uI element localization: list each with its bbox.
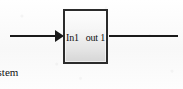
input-port-label: In1 (66, 32, 79, 43)
block-caption-text: Subsystem (0, 66, 18, 78)
output-port-label: out 1 (86, 32, 105, 43)
block-caption: Subsystem (0, 66, 183, 78)
input-signal-line[interactable] (10, 35, 58, 37)
subsystem-block[interactable]: In1 out 1 (63, 9, 108, 64)
output-signal-line[interactable] (109, 35, 178, 37)
port-label-row: In1 out 1 (65, 30, 106, 44)
diagram-canvas: In1 out 1 Subsystem (0, 0, 183, 89)
